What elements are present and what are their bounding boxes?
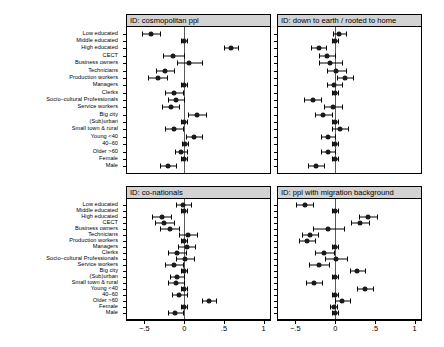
point-estimate-marker <box>186 61 191 66</box>
point-estimate-marker <box>310 98 315 103</box>
point-estimate-marker <box>167 227 172 232</box>
point-estimate-marker <box>333 142 338 147</box>
panel-title: ID: co-nationals <box>130 189 183 197</box>
confidence-interval-cap <box>177 61 178 66</box>
confidence-interval-cap <box>326 46 327 51</box>
x-axis-tick-label: 1 <box>262 325 266 333</box>
point-estimate-marker <box>333 245 338 250</box>
confidence-interval-cap <box>309 263 310 268</box>
confidence-interval-cap <box>338 120 339 125</box>
point-estimate-marker <box>326 134 331 139</box>
confidence-interval-cap <box>332 112 333 117</box>
confidence-interval-cap <box>186 251 187 256</box>
confidence-interval-cap <box>187 293 188 298</box>
point-estimate-marker <box>363 287 368 292</box>
confidence-interval-cap <box>319 53 320 58</box>
point-estimate-marker <box>174 98 179 103</box>
x-axis-line <box>277 320 422 321</box>
point-estimate-marker <box>182 142 187 147</box>
confidence-interval-cap <box>187 83 188 88</box>
confidence-interval-cap <box>329 263 330 268</box>
confidence-interval-cap <box>176 203 177 208</box>
point-estimate-marker <box>333 156 338 161</box>
confidence-interval-cap <box>335 299 336 304</box>
confidence-interval-cap <box>338 156 339 161</box>
point-estimate-marker <box>326 227 331 232</box>
confidence-interval-cap <box>302 233 303 238</box>
x-axis-tick-label: −.5 <box>139 325 149 333</box>
confidence-interval-cap <box>183 90 184 95</box>
confidence-interval-cap <box>163 53 164 58</box>
point-estimate-marker <box>182 156 187 161</box>
point-estimate-marker <box>326 149 331 154</box>
confidence-interval-cap <box>187 156 188 161</box>
point-estimate-marker <box>307 233 312 238</box>
confidence-interval-cap <box>321 149 322 154</box>
confidence-interval-cap <box>187 305 188 310</box>
point-estimate-marker <box>163 68 168 73</box>
confidence-interval-cap <box>347 257 348 262</box>
category-label-gutter: Low educatedMiddle educatedHigh educated… <box>0 0 118 347</box>
point-estimate-marker <box>182 305 187 310</box>
confidence-interval-cap <box>172 293 173 298</box>
confidence-interval-cap <box>327 68 328 73</box>
confidence-interval-cap <box>342 61 343 66</box>
x-axis-tick-label: −.5 <box>290 325 300 333</box>
plot-panel: ID: cosmopolitan ppl <box>126 14 271 174</box>
x-axis-line <box>126 320 271 321</box>
confidence-interval-cap <box>183 127 184 132</box>
confidence-interval-cap <box>176 164 177 169</box>
confidence-interval-cap <box>186 134 187 139</box>
confidence-interval-cap <box>187 39 188 44</box>
panel-title: ID: cosmopolitan ppl <box>130 17 199 25</box>
confidence-interval-cap <box>337 305 338 310</box>
confidence-interval-cap <box>344 227 345 232</box>
confidence-interval-cap <box>197 233 198 238</box>
confidence-interval-cap <box>311 46 312 51</box>
x-axis-tick-label: 0 <box>182 325 186 333</box>
point-estimate-marker <box>182 209 187 214</box>
confidence-interval-cap <box>332 127 333 132</box>
confidence-interval-cap <box>359 215 360 220</box>
confidence-interval-cap <box>174 221 175 226</box>
confidence-interval-cap <box>202 61 203 66</box>
confidence-interval-cap <box>299 239 300 244</box>
confidence-interval-cap <box>338 209 339 214</box>
confidence-interval-cap <box>195 245 196 250</box>
point-estimate-marker <box>332 83 337 88</box>
confidence-interval-cap <box>191 203 192 208</box>
point-estimate-marker <box>168 105 173 110</box>
confidence-interval-cap <box>175 149 176 154</box>
confidence-interval-cap <box>296 203 297 208</box>
confidence-interval-cap <box>337 75 338 80</box>
confidence-interval-cap <box>308 164 309 169</box>
confidence-interval-cap <box>350 299 351 304</box>
confidence-interval-cap <box>319 61 320 66</box>
point-estimate-marker <box>355 269 360 274</box>
confidence-interval-cap <box>238 46 239 51</box>
point-estimate-marker <box>331 305 336 310</box>
confidence-interval-cap <box>315 112 316 117</box>
point-estimate-marker <box>155 75 160 80</box>
x-axis-tick-label: .5 <box>372 325 378 333</box>
confidence-interval-cap <box>168 251 169 256</box>
confidence-interval-cap <box>170 275 171 280</box>
confidence-interval-cap <box>335 53 336 58</box>
confidence-interval-cap <box>160 227 161 232</box>
point-estimate-marker <box>303 203 308 208</box>
panel-header: ID: down to earth / rooted to home <box>277 14 422 27</box>
point-estimate-marker <box>182 287 187 292</box>
confidence-interval-cap <box>165 263 166 268</box>
confidence-interval-cap <box>176 257 177 262</box>
confidence-interval-cap <box>152 215 153 220</box>
confidence-interval-cap <box>184 53 185 58</box>
confidence-interval-cap <box>202 299 203 304</box>
confidence-interval-cap <box>333 31 334 36</box>
confidence-interval-cap <box>306 281 307 286</box>
confidence-interval-cap <box>216 299 217 304</box>
panel-title: ID: ppl with migration background <box>281 189 394 197</box>
confidence-interval-cap <box>206 112 207 117</box>
point-estimate-marker <box>321 112 326 117</box>
confidence-interval-cap <box>338 90 339 95</box>
panel-header: ID: ppl with migration background <box>277 186 422 199</box>
